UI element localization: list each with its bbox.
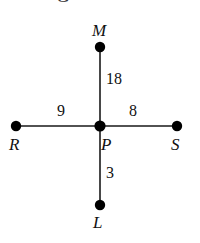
geometry-figure: G M R P S L 18 3 9 8 xyxy=(0,0,200,243)
point-label-M: M xyxy=(92,22,106,39)
point-label-S: S xyxy=(171,136,180,153)
length-label-PS: 8 xyxy=(129,103,137,119)
point-label-R: R xyxy=(9,136,19,153)
length-label-RP: 9 xyxy=(57,103,65,119)
point-dot-M xyxy=(95,42,105,52)
clipped-top-glyph: G xyxy=(56,0,78,6)
length-label-MP: 18 xyxy=(106,71,122,87)
point-dot-S xyxy=(172,121,182,131)
point-dot-P xyxy=(94,120,105,131)
point-dot-R xyxy=(11,121,21,131)
point-label-P: P xyxy=(101,136,111,153)
point-dot-L xyxy=(95,200,105,210)
length-label-PL: 3 xyxy=(106,165,114,181)
point-label-L: L xyxy=(93,214,102,231)
